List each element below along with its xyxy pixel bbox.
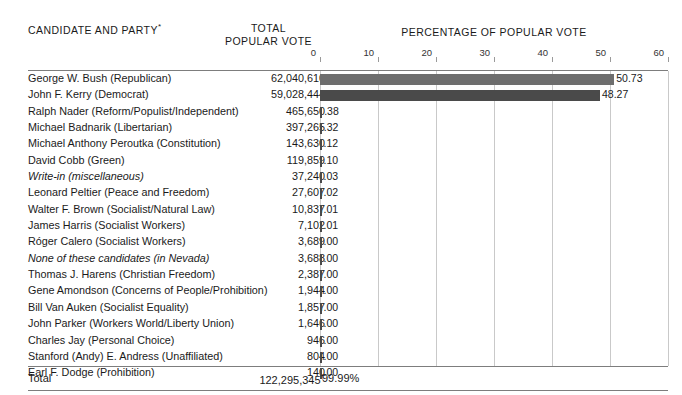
column-header-total-popular-vote: TOTAL POPULAR VOTE xyxy=(212,22,325,48)
percentage-value-label: .00 xyxy=(322,301,339,313)
total-row: Total 122,295,345† 99.99% xyxy=(0,372,682,388)
bar-container xyxy=(320,74,614,85)
candidate-name: Bill Van Auken (Socialist Equality) xyxy=(28,301,189,313)
total-popular-vote-value: 37,240 xyxy=(175,170,325,182)
table-row: Ralph Nader (Reform/Populist/Independent… xyxy=(0,104,682,120)
table-row: Gene Amondson (Concerns of People/Prohib… xyxy=(0,283,682,299)
percentage-value-label: .00 xyxy=(322,334,339,346)
candidate-footnote-marker: * xyxy=(158,22,162,31)
x-axis-tick-mark xyxy=(552,57,553,62)
percentage-value-label: .03 xyxy=(322,170,339,182)
total-popular-vote-value: 465,650 xyxy=(175,105,325,117)
x-axis-tick-mark xyxy=(320,57,321,62)
percentage-value-label: .02 xyxy=(322,186,339,198)
percentage-value-label: .00 xyxy=(322,350,339,362)
percentage-value-label: .32 xyxy=(322,121,339,133)
x-axis-tick-label: 30 xyxy=(479,47,494,58)
chart-title: PERCENTAGE OF POPULAR VOTE xyxy=(320,26,668,38)
table-row: Write-in (miscellaneous)37,240.03 xyxy=(0,169,682,185)
total-label: Total xyxy=(28,372,51,384)
table-row: Bill Van Auken (Socialist Equality)1,857… xyxy=(0,300,682,316)
total-popular-vote-value: 27,607 xyxy=(175,186,325,198)
column-header-candidate-and-party: CANDIDATE AND PARTY* xyxy=(28,22,161,36)
table-row: None of these candidates (in Nevada)3,68… xyxy=(0,251,682,267)
x-axis-tick-mark xyxy=(494,57,495,62)
column-header-total-line2: POPULAR VOTE xyxy=(212,35,325,48)
x-axis-tick-label: 20 xyxy=(421,47,436,58)
total-popular-vote-value: 62,040,610 xyxy=(175,72,325,84)
total-popular-vote-value: 1,857 xyxy=(175,301,325,313)
percentage-value-label: 50.73 xyxy=(614,72,642,84)
percentage-value-label: .01 xyxy=(322,219,339,231)
total-popular-vote-value: 397,265 xyxy=(175,121,325,133)
percentage-value-label: .00 xyxy=(322,284,339,296)
column-header-total-line1: TOTAL xyxy=(212,22,325,35)
table-row: George W. Bush (Republican)62,040,61050.… xyxy=(0,71,682,87)
x-axis-tick-mark xyxy=(436,57,437,62)
percentage-value-label: 48.27 xyxy=(600,88,628,100)
candidate-name: David Cobb (Green) xyxy=(28,154,125,166)
candidate-name: Write-in (miscellaneous) xyxy=(28,170,144,182)
total-popular-vote-value: 3,689 xyxy=(175,235,325,247)
percentage-value-label: .00 xyxy=(322,252,339,264)
table-row: Leonard Peltier (Peace and Freedom)27,60… xyxy=(0,185,682,201)
percentage-value-label: .01 xyxy=(322,203,339,215)
table-row: Michael Anthony Peroutka (Constitution)1… xyxy=(0,136,682,152)
x-axis: 0102030405060 xyxy=(320,47,668,61)
table-row: John F. Kerry (Democrat)59,028,44448.27 xyxy=(0,87,682,103)
x-axis-tick-mark xyxy=(378,57,379,62)
table-row: Michael Badnarik (Libertarian)397,265.32 xyxy=(0,120,682,136)
candidate-name: Charles Jay (Personal Choice) xyxy=(28,334,174,346)
percentage-bar xyxy=(320,74,614,85)
total-popular-vote-value: 1,646 xyxy=(175,317,325,329)
column-header-candidate-label: CANDIDATE AND PARTY xyxy=(28,24,158,36)
table-row: Walter F. Brown (Socialist/Natural Law)1… xyxy=(0,202,682,218)
percentage-value-label: .00 xyxy=(322,268,339,280)
x-axis-tick-mark xyxy=(610,57,611,62)
candidate-name: James Harris (Socialist Workers) xyxy=(28,219,185,231)
total-popular-vote-value: 59,028,444 xyxy=(175,88,325,100)
total-percent: 99.99% xyxy=(322,372,359,384)
x-axis-tick-mark xyxy=(668,57,669,62)
total-popular-vote-value: 10,837 xyxy=(175,203,325,215)
bar-container xyxy=(320,90,600,101)
total-popular-vote-value: 143,630 xyxy=(175,137,325,149)
total-popular-vote-value: 946 xyxy=(175,334,325,346)
total-votes: 122,295,345† xyxy=(175,372,325,386)
table-row: Thomas J. Harens (Christian Freedom)2,38… xyxy=(0,267,682,283)
table-row: John Parker (Workers World/Liberty Union… xyxy=(0,316,682,332)
table-row: James Harris (Socialist Workers)7,102.01 xyxy=(0,218,682,234)
candidate-name: Michael Badnarik (Libertarian) xyxy=(28,121,172,133)
x-axis-tick-label: 40 xyxy=(537,47,552,58)
total-popular-vote-value: 119,859 xyxy=(175,154,325,166)
percentage-value-label: .12 xyxy=(322,137,339,149)
total-popular-vote-value: 3,688 xyxy=(175,252,325,264)
x-axis-tick-label: 0 xyxy=(311,47,320,58)
table-row: David Cobb (Green)119,859.10 xyxy=(0,153,682,169)
x-axis-tick-label: 50 xyxy=(595,47,610,58)
percentage-value-label: .00 xyxy=(322,317,339,329)
candidate-name: Róger Calero (Socialist Workers) xyxy=(28,235,186,247)
percentage-bar xyxy=(320,90,600,101)
total-popular-vote-value: 2,387 xyxy=(175,268,325,280)
total-popular-vote-value: 804 xyxy=(175,350,325,362)
table-row: Charles Jay (Personal Choice)946.00 xyxy=(0,333,682,349)
total-popular-vote-value: 1,944 xyxy=(175,284,325,296)
total-votes-value: 122,295,345 xyxy=(259,374,320,386)
table-row: Stanford (Andy) E. Andress (Unaffiliated… xyxy=(0,349,682,365)
percentage-value-label: .00 xyxy=(322,235,339,247)
rule-final xyxy=(28,390,668,391)
candidate-name: George W. Bush (Republican) xyxy=(28,72,171,84)
table-row: Róger Calero (Socialist Workers)3,689.00 xyxy=(0,234,682,250)
candidate-rows: George W. Bush (Republican)62,040,61050.… xyxy=(0,71,682,382)
candidate-name: John F. Kerry (Democrat) xyxy=(28,88,149,100)
election-results-table: CANDIDATE AND PARTY* TOTAL POPULAR VOTE … xyxy=(0,0,682,395)
total-popular-vote-value: 7,102 xyxy=(175,219,325,231)
x-axis-tick-label: 60 xyxy=(653,47,668,58)
x-axis-tick-label: 10 xyxy=(363,47,378,58)
percentage-value-label: .10 xyxy=(322,154,339,166)
percentage-value-label: .38 xyxy=(322,105,339,117)
